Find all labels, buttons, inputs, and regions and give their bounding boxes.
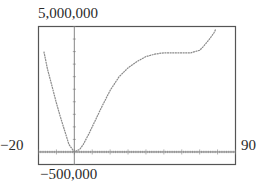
function-curve <box>44 29 216 152</box>
graph-plot <box>0 0 257 184</box>
axes <box>39 27 236 165</box>
plot-frame <box>39 27 236 165</box>
